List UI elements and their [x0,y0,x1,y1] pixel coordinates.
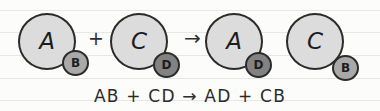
molecule-product-ad: A D [189,0,279,88]
atom-small-b: B [332,55,359,81]
molecule-product-cb: C B [274,0,364,88]
molecule-reactant-cd: C D [94,0,184,88]
molecule-reactant-ab: A B [4,0,94,88]
reaction-diagram-canvas: A B + C D → A D + C B AB + CD → AD + CB [0,0,380,111]
reaction-scene: A B + C D → A D + C B [0,0,380,88]
atom-small-b: B [62,50,89,76]
reaction-equation-caption: AB + CD → AD + CB [0,86,380,106]
plus-sign-reactants: + [88,29,104,48]
atom-small-d: D [153,52,180,78]
reaction-arrow-icon: → [184,28,201,48]
atom-small-d: D [245,52,272,78]
